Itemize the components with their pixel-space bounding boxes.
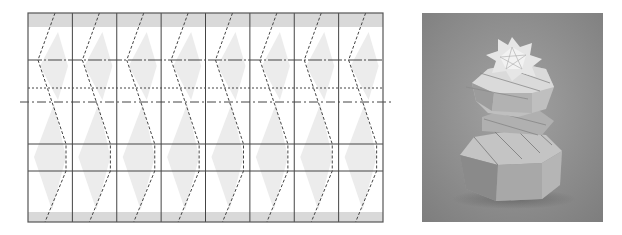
shade-diamond-lower xyxy=(212,104,244,210)
shade-diamond-lower xyxy=(345,104,377,210)
shade-diamond-lower xyxy=(78,104,110,210)
shade-diamond-lower xyxy=(300,104,332,210)
vertical-crease-lines xyxy=(72,13,338,222)
shade-diamond-lower xyxy=(123,104,155,210)
crease-pattern-diagram xyxy=(0,0,410,235)
shade-diamond-lower xyxy=(167,104,199,210)
shade-diamond-lower xyxy=(34,104,66,210)
folded-model-photo xyxy=(422,13,603,222)
shaded-diamond-regions xyxy=(34,32,379,210)
horizontal-crease-lines xyxy=(20,60,393,171)
shade-diamond-lower xyxy=(256,104,288,210)
